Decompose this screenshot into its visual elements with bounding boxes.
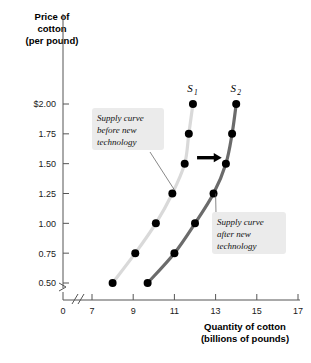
y-axis-ticks: 0.500.751.001.251.501.75$2.00: [33, 99, 69, 288]
x-axis-break-icon: [72, 294, 84, 304]
annotation-line: after new: [217, 229, 251, 239]
y-tick-label: 1.25: [38, 189, 56, 199]
x-tick-label: 11: [170, 306, 179, 316]
data-point: [228, 130, 236, 138]
x-tick-label: 7: [89, 306, 94, 316]
annotation-line: Supply curve: [97, 113, 144, 123]
x-axis-title-line: Quantity of cotton: [204, 321, 286, 332]
y-tick-label: $2.00: [33, 99, 56, 109]
x-origin-label: 0: [60, 306, 65, 316]
data-point: [185, 130, 193, 138]
chart-axes: [59, 14, 300, 304]
y-tick-label: 0.50: [38, 278, 56, 288]
x-tick-label: 15: [252, 306, 262, 316]
data-point: [222, 160, 230, 168]
y-tick-label: 1.75: [38, 129, 56, 139]
data-point: [191, 219, 199, 227]
supply-curve-chart: Price ofcotton(per pound) Quantity of co…: [0, 0, 311, 363]
y-axis-title-line: (per pound): [26, 35, 79, 46]
data-point: [109, 279, 117, 287]
curve-labels: S1S2: [187, 82, 241, 97]
annotation-line: technology: [97, 137, 137, 147]
data-point: [168, 190, 176, 198]
chart-canvas: Price ofcotton(per pound) Quantity of co…: [0, 0, 311, 363]
annotation-line: before new: [97, 125, 136, 135]
curve-label-letter: S: [187, 82, 193, 94]
curve-label-subscript: 2: [237, 88, 241, 97]
y-axis-title-line: cotton: [37, 23, 66, 34]
y-tick-label: 1.50: [38, 159, 56, 169]
shift-arrow-head: [214, 153, 222, 162]
x-axis-title-line: (billions of pounds): [201, 333, 289, 344]
shift-arrow: [197, 153, 222, 162]
x-axis-title: Quantity of cotton(billions of pounds): [201, 321, 289, 344]
curve-label-s1: S1: [187, 82, 198, 97]
x-tick-label: 17: [293, 306, 303, 316]
data-point: [232, 100, 240, 108]
curve-label-subscript: 1: [194, 88, 198, 97]
data-point: [181, 160, 189, 168]
data-point: [144, 279, 152, 287]
data-point: [152, 219, 160, 227]
data-point: [170, 249, 178, 257]
y-axis-title: Price ofcotton(per pound): [26, 11, 79, 46]
annotation-leader-line: [150, 152, 174, 190]
annotation-line: technology: [217, 241, 257, 251]
curve-label-s2: S2: [230, 82, 241, 97]
x-tick-label: 13: [211, 306, 221, 316]
annotation-line: Supply curve: [217, 217, 264, 227]
data-point: [210, 190, 218, 198]
annotation-after: Supply curveafter newtechnology: [212, 194, 286, 255]
x-tick-label: 9: [131, 306, 136, 316]
y-axis-title-line: Price of: [35, 11, 71, 22]
annotation-before: Supply curvebefore newtechnology: [92, 108, 174, 190]
y-tick-label: 1.00: [38, 219, 56, 229]
x-axis-ticks: 79111315170: [60, 294, 303, 316]
curve-label-letter: S: [230, 82, 236, 94]
data-point: [189, 100, 197, 108]
data-point: [131, 249, 139, 257]
y-tick-label: 0.75: [38, 249, 56, 259]
